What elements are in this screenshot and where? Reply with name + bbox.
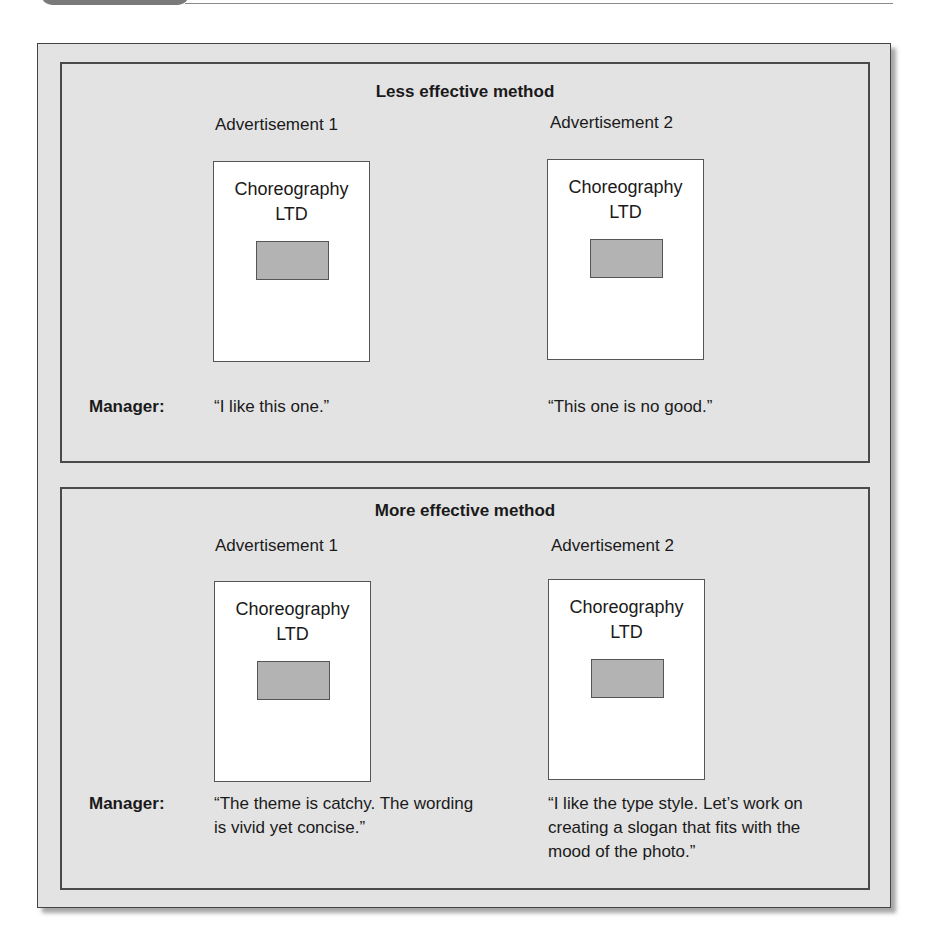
advertisement-mockup: Choreography LTD bbox=[548, 579, 705, 780]
company-name-line1: Choreography bbox=[549, 595, 704, 620]
panel-less-effective: Less effective method Advertisement 1 Ad… bbox=[60, 62, 870, 463]
figure-frame: Less effective method Advertisement 1 Ad… bbox=[37, 43, 891, 908]
photo-placeholder bbox=[256, 241, 329, 280]
ad-label: Advertisement 1 bbox=[215, 536, 338, 556]
advertisement-mockup: Choreography LTD bbox=[213, 161, 370, 362]
panel-more-effective: More effective method Advertisement 1 Ad… bbox=[60, 487, 870, 890]
ad-label: Advertisement 2 bbox=[550, 113, 673, 133]
company-name-line1: Choreography bbox=[214, 177, 369, 202]
company-name: Choreography LTD bbox=[549, 595, 704, 645]
company-name-line1: Choreography bbox=[548, 175, 703, 200]
company-name: Choreography LTD bbox=[215, 597, 370, 647]
ad-label: Advertisement 1 bbox=[215, 115, 338, 135]
ad-label: Advertisement 2 bbox=[551, 536, 674, 556]
manager-label: Manager: bbox=[89, 397, 165, 417]
manager-comment: “The theme is catchy. The wording is viv… bbox=[214, 792, 474, 840]
company-name-line1: Choreography bbox=[215, 597, 370, 622]
header-rule bbox=[185, 3, 893, 4]
company-name: Choreography LTD bbox=[548, 175, 703, 225]
photo-placeholder bbox=[590, 239, 663, 278]
company-name: Choreography LTD bbox=[214, 177, 369, 227]
panel-title: More effective method bbox=[62, 501, 868, 521]
company-name-line2: LTD bbox=[549, 620, 704, 645]
company-name-line2: LTD bbox=[215, 622, 370, 647]
advertisement-mockup: Choreography LTD bbox=[214, 581, 371, 782]
manager-comment: “I like the type style. Let’s work on cr… bbox=[548, 792, 840, 864]
manager-comment: “I like this one.” bbox=[214, 395, 514, 419]
company-name-line2: LTD bbox=[214, 202, 369, 227]
photo-placeholder bbox=[591, 659, 664, 698]
manager-label: Manager: bbox=[89, 794, 165, 814]
header-tab bbox=[40, 0, 190, 5]
advertisement-mockup: Choreography LTD bbox=[547, 159, 704, 360]
company-name-line2: LTD bbox=[548, 200, 703, 225]
photo-placeholder bbox=[257, 661, 330, 700]
manager-comment: “This one is no good.” bbox=[548, 395, 848, 419]
panel-title: Less effective method bbox=[62, 82, 868, 102]
